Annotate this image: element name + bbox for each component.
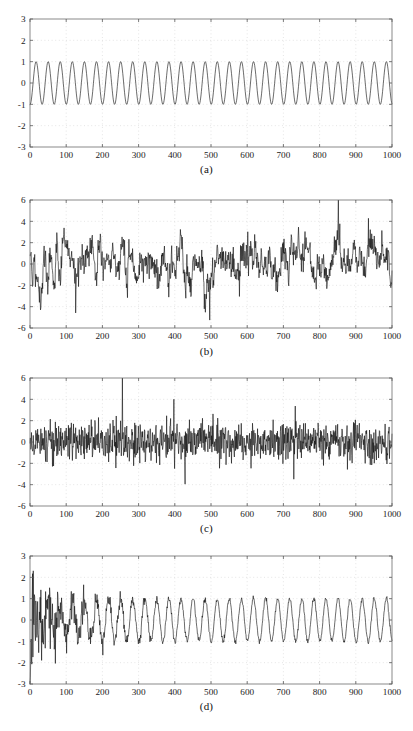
xtick-label: 700 [277, 509, 291, 519]
ytick-label: -3 [18, 679, 26, 689]
ytick-label: 6 [21, 195, 26, 205]
xtick-label: 300 [132, 150, 146, 160]
ytick-label: -2 [18, 121, 26, 131]
ytick-label: 2 [21, 416, 26, 426]
ytick-label: 0 [21, 437, 26, 447]
xtick-label: 0 [28, 150, 33, 160]
xtick-label: 400 [168, 687, 182, 697]
plot-area-a: 01002003004005006007008009001000-3-2-101… [0, 0, 413, 731]
xtick-label: 200 [96, 509, 110, 519]
xtick-label: 900 [349, 687, 363, 697]
xtick-label: 600 [240, 150, 254, 160]
ytick-label: 1 [21, 594, 26, 604]
xtick-label: 300 [132, 687, 146, 697]
axis-box-a [30, 19, 392, 147]
ytick-label: 4 [21, 217, 26, 227]
xtick-label: 200 [96, 687, 110, 697]
ytick-label: -1 [18, 637, 26, 647]
xtick-label: 1000 [383, 150, 402, 160]
axis-ticks-a: 01002003004005006007008009001000-3-2-101… [18, 14, 402, 159]
ytick-label: -1 [18, 100, 26, 110]
xtick-label: 600 [240, 331, 254, 341]
ytick-label: -3 [18, 142, 26, 152]
panel-caption-b: (b) [0, 345, 413, 357]
xtick-label: 0 [28, 331, 33, 341]
xtick-label: 0 [28, 509, 33, 519]
xtick-label: 800 [313, 150, 327, 160]
axis-ticks-d: 01002003004005006007008009001000-3-2-101… [18, 551, 402, 696]
plot-area-c: 01002003004005006007008009001000-6-4-202… [0, 0, 413, 731]
plot-area-d: 01002003004005006007008009001000-3-2-101… [0, 0, 413, 731]
ytick-label: -2 [18, 658, 26, 668]
ytick-label: -2 [18, 459, 26, 469]
ytick-label: 3 [21, 14, 26, 24]
ytick-label: -6 [18, 501, 26, 511]
xtick-label: 100 [59, 509, 73, 519]
ytick-label: 3 [21, 551, 26, 561]
series-line-a [30, 62, 392, 105]
axis-box-c [30, 378, 392, 506]
xtick-label: 1000 [383, 509, 402, 519]
xtick-label: 500 [204, 509, 218, 519]
xtick-label: 100 [59, 331, 73, 341]
xtick-label: 800 [313, 687, 327, 697]
xtick-label: 900 [349, 150, 363, 160]
ytick-label: 2 [21, 36, 26, 46]
panel-caption-a: (a) [0, 163, 413, 175]
xtick-label: 700 [277, 150, 291, 160]
xtick-label: 900 [349, 509, 363, 519]
ytick-label: -6 [18, 323, 26, 333]
xtick-label: 400 [168, 150, 182, 160]
panel-caption-c: (c) [0, 522, 413, 534]
ytick-label: -4 [18, 480, 26, 490]
ytick-label: 0 [21, 615, 26, 625]
ytick-label: 1 [21, 57, 26, 67]
gridlines-c [30, 378, 392, 506]
gridlines-d [30, 556, 392, 684]
xtick-label: 700 [277, 687, 291, 697]
xtick-label: 700 [277, 331, 291, 341]
xtick-label: 800 [313, 509, 327, 519]
ytick-label: 0 [21, 259, 26, 269]
gridlines-a [30, 19, 392, 147]
xtick-label: 500 [204, 687, 218, 697]
ytick-label: 2 [21, 238, 26, 248]
xtick-label: 1000 [383, 331, 402, 341]
axis-box-d [30, 556, 392, 684]
ytick-label: -4 [18, 302, 26, 312]
series-line-b [30, 200, 392, 320]
panel-caption-d: (d) [0, 700, 413, 712]
xtick-label: 600 [240, 687, 254, 697]
ytick-label: 0 [21, 78, 26, 88]
xtick-label: 400 [168, 331, 182, 341]
axis-ticks-b: 01002003004005006007008009001000-6-4-202… [18, 195, 402, 340]
ytick-label: -2 [18, 281, 26, 291]
figure-four-panel-timeseries: 01002003004005006007008009001000-3-2-101… [0, 0, 413, 731]
ytick-label: 2 [21, 573, 26, 583]
xtick-label: 600 [240, 509, 254, 519]
xtick-label: 800 [313, 331, 327, 341]
xtick-label: 500 [204, 150, 218, 160]
xtick-label: 900 [349, 331, 363, 341]
xtick-label: 0 [28, 687, 33, 697]
xtick-label: 1000 [383, 687, 402, 697]
xtick-label: 100 [59, 687, 73, 697]
xtick-label: 200 [96, 150, 110, 160]
series-line-c [30, 378, 392, 484]
xtick-label: 200 [96, 331, 110, 341]
series-line-d [30, 571, 392, 684]
xtick-label: 300 [132, 509, 146, 519]
xtick-label: 300 [132, 331, 146, 341]
axis-ticks-c: 01002003004005006007008009001000-6-4-202… [18, 373, 402, 518]
xtick-label: 500 [204, 331, 218, 341]
ytick-label: 4 [21, 395, 26, 405]
plot-area-b: 01002003004005006007008009001000-6-4-202… [0, 0, 413, 731]
gridlines-b [30, 200, 392, 328]
xtick-label: 400 [168, 509, 182, 519]
ytick-label: 6 [21, 373, 26, 383]
axis-box-b [30, 200, 392, 328]
xtick-label: 100 [59, 150, 73, 160]
